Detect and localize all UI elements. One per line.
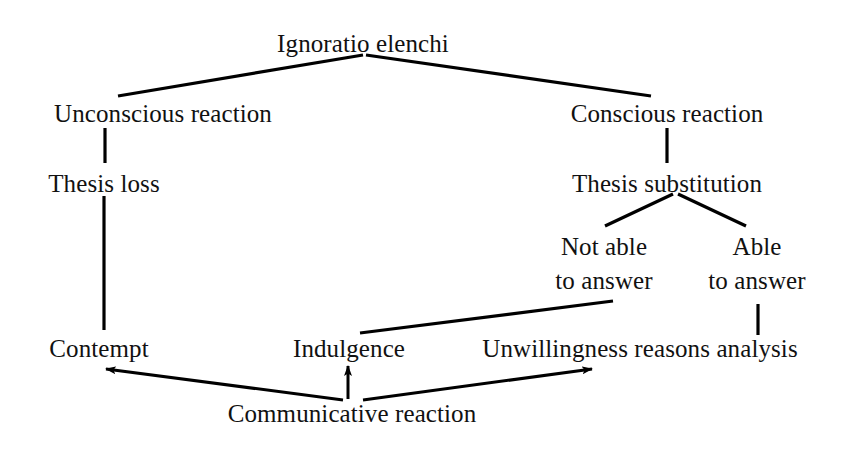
- diagram-edge-root-to-conscious: [366, 55, 651, 96]
- diagram-node-not-able: Not ableto answer: [555, 230, 652, 298]
- diagram-node-conscious: Conscious reaction: [571, 100, 764, 128]
- diagram-edge-thesis-subst-to-not-able: [605, 194, 673, 226]
- diagram-edge-thesis-subst-to-able: [678, 194, 746, 226]
- diagram-node-communicative: Communicative reaction: [228, 400, 477, 428]
- diagram-node-root: Ignoratio elenchi: [277, 30, 449, 58]
- diagram-edge-communicative-to-unwilling: [363, 369, 592, 400]
- diagram-edge-communicative-to-contempt: [106, 369, 343, 400]
- diagram-node-unwillingness: Unwillingness reasons analysis: [482, 335, 797, 363]
- diagram-edge-root-to-unconscious: [118, 55, 363, 96]
- diagram-node-unconscious: Unconscious reaction: [54, 100, 272, 128]
- diagram-node-thesis-loss: Thesis loss: [48, 170, 160, 198]
- diagram-node-thesis-subst: Thesis substitution: [572, 170, 762, 198]
- diagram-node-indulgence: Indulgence: [293, 335, 405, 363]
- diagram-node-contempt: Contempt: [49, 335, 148, 363]
- diagram-node-able: Ableto answer: [708, 230, 805, 298]
- diagram-edge-not-able-to-indulgence: [360, 301, 613, 333]
- diagram-canvas: Ignoratio elenchiUnconscious reactionCon…: [0, 0, 849, 459]
